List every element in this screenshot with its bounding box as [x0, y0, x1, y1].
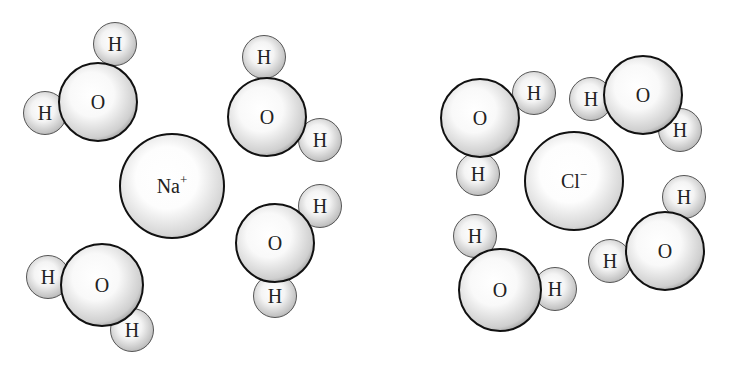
- hydrogen-atom-label: H: [548, 278, 562, 301]
- hydrogen-atom-label: H: [313, 129, 327, 152]
- hydrogen-atom-label: H: [38, 102, 52, 125]
- oxygen-atom: O: [458, 248, 542, 332]
- hydration-diagram: HHOHHOHHOHHONa+ HHOHHOHHOHHOCl−: [0, 0, 736, 377]
- chloride-ion: Cl−: [524, 131, 624, 231]
- ion-label: Na+: [157, 175, 188, 198]
- oxygen-atom-label: O: [268, 232, 282, 255]
- hydrogen-atom-label: H: [125, 319, 139, 342]
- oxygen-atom: O: [58, 62, 138, 142]
- hydrogen-atom-label: H: [603, 250, 617, 273]
- hydrogen-atom-label: H: [313, 195, 327, 218]
- oxygen-atom: O: [227, 77, 307, 157]
- hydrogen-atom: H: [242, 35, 286, 79]
- sodium-ion: Na+: [119, 133, 225, 239]
- hydrogen-atom-label: H: [468, 225, 482, 248]
- oxygen-atom-label: O: [658, 240, 672, 263]
- hydrogen-atom-label: H: [584, 88, 598, 111]
- oxygen-atom: O: [60, 243, 144, 327]
- hydrogen-atom-label: H: [673, 119, 687, 142]
- ion-charge: +: [180, 172, 187, 187]
- ion-symbol: Cl: [561, 170, 580, 192]
- hydrogen-atom-label: H: [471, 163, 485, 186]
- hydrogen-atom-label: H: [41, 266, 55, 289]
- hydrogen-atom-label: H: [108, 33, 122, 56]
- oxygen-atom-label: O: [493, 279, 507, 302]
- hydrogen-atom-label: H: [257, 46, 271, 69]
- ion-label: Cl−: [561, 170, 587, 193]
- ion-symbol: Na: [157, 175, 180, 197]
- hydrogen-atom-label: H: [677, 186, 691, 209]
- hydrogen-atom-label: H: [268, 285, 282, 308]
- oxygen-atom-label: O: [91, 91, 105, 114]
- oxygen-atom-label: O: [260, 106, 274, 129]
- hydrogen-atom: H: [93, 22, 137, 66]
- oxygen-atom: O: [603, 55, 683, 135]
- oxygen-atom: O: [235, 203, 315, 283]
- oxygen-atom: O: [625, 211, 705, 291]
- oxygen-atom-label: O: [473, 107, 487, 130]
- oxygen-atom-label: O: [636, 84, 650, 107]
- ion-charge: −: [580, 167, 587, 182]
- hydrogen-atom: H: [456, 152, 500, 196]
- hydrogen-atom-label: H: [527, 82, 541, 105]
- oxygen-atom-label: O: [95, 274, 109, 297]
- oxygen-atom: O: [440, 78, 520, 158]
